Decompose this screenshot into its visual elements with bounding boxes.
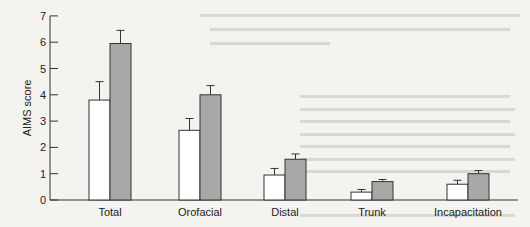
category-label: Total	[98, 206, 121, 218]
bar-white	[447, 184, 468, 200]
y-tick-label: 7	[40, 10, 46, 22]
category-label: Incapacitation	[434, 206, 502, 218]
y-tick-label: 3	[40, 115, 46, 127]
y-tick-label: 2	[40, 141, 46, 153]
bar-gray	[285, 159, 306, 200]
bar-gray	[372, 182, 393, 200]
bar-gray	[200, 95, 221, 200]
y-tick-label: 1	[40, 168, 46, 180]
category-label: Distal	[271, 206, 299, 218]
bar-white	[351, 192, 372, 200]
bar-gray	[468, 174, 489, 200]
y-tick-label: 6	[40, 36, 46, 48]
bar-white	[89, 100, 110, 200]
bar-chart: 01234567AIMS scoreTotalOrofacialDistalTr…	[0, 0, 530, 227]
y-tick-label: 0	[40, 194, 46, 206]
category-label: Trunk	[358, 206, 386, 218]
bar-white	[179, 130, 200, 200]
y-axis-label: AIMS score	[21, 80, 33, 137]
y-tick-label: 5	[40, 63, 46, 75]
category-label: Orofacial	[178, 206, 222, 218]
bar-white	[264, 175, 285, 200]
bar-gray	[110, 44, 131, 200]
y-tick-label: 4	[40, 89, 46, 101]
